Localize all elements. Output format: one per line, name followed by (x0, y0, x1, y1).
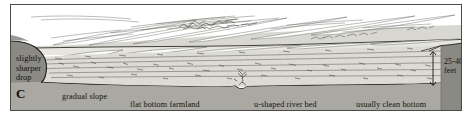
figure-root: slightly sharper drop C gradual slope fl… (0, 0, 472, 123)
label-slightly-sharper-drop: slightly sharper drop (16, 54, 42, 83)
panel-letter-c: C (16, 87, 26, 100)
label-gradual-slope: gradual slope (62, 93, 107, 101)
right-cutaway-wall (441, 43, 461, 110)
depth-value: 25-40 (444, 57, 461, 66)
label-depth-measurement: 25-40 feet (444, 57, 461, 76)
label-usually-clean-bottom: usually clean bottom (356, 101, 426, 109)
figure-canvas: slightly sharper drop C gradual slope fl… (11, 5, 461, 110)
label-flat-bottom-farmland: flat bottom farmland (130, 101, 200, 109)
sharper-drop-line-2: sharper (16, 64, 42, 74)
sharper-drop-line-1: slightly (16, 54, 42, 64)
sharper-drop-line-3: drop (16, 73, 42, 83)
depth-unit: feet (444, 66, 461, 75)
label-u-shaped-river-bed: u-shaped river bed (254, 101, 317, 109)
figure-frame: slightly sharper drop C gradual slope fl… (10, 4, 462, 111)
